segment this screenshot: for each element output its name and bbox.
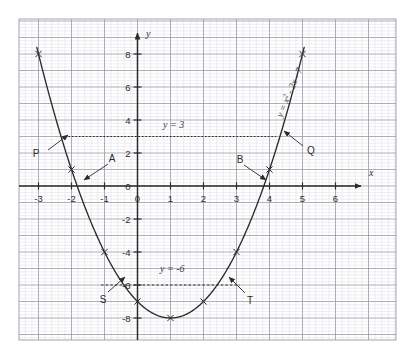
point-label-T: T [247,295,253,306]
point-label-P: P [33,148,40,159]
label-y-equals-3: y = 3 [162,119,184,130]
graph-figure: -3-2-10123456 86420-2-4-6-8 x y y = 3 y … [0,0,413,358]
y-tick-label: -4 [122,247,130,258]
y-tick-label: -8 [122,313,130,324]
y-tick-label: 4 [125,115,130,126]
y-tick-label: 6 [125,82,130,93]
y-axis-label: y [145,28,151,39]
x-tick-label: 5 [300,193,305,204]
y-tick-label: -2 [122,214,130,225]
x-tick-label: 0 [135,193,140,204]
x-tick-label: 6 [333,193,338,204]
y-tick-label: 8 [125,49,130,60]
x-axis-label: x [368,167,374,178]
graph-canvas: -3-2-10123456 86420-2-4-6-8 x y y = 3 y … [0,0,413,358]
point-label-A: A [109,153,116,164]
x-tick-label: 4 [267,193,272,204]
x-tick-label: -1 [100,193,108,204]
x-tick-label: -2 [67,193,75,204]
y-tick-label: 2 [125,148,130,159]
x-tick-label: 1 [168,193,173,204]
x-tick-label: 2 [201,193,206,204]
point-label-S: S [100,294,107,305]
x-tick-label: -3 [34,193,42,204]
y-tick-label: 0 [125,181,130,192]
x-tick-label: 3 [234,193,239,204]
label-y-equals-minus-6: y = -6 [159,263,185,274]
point-label-Q: Q [307,145,315,156]
point-label-B: B [237,154,244,165]
